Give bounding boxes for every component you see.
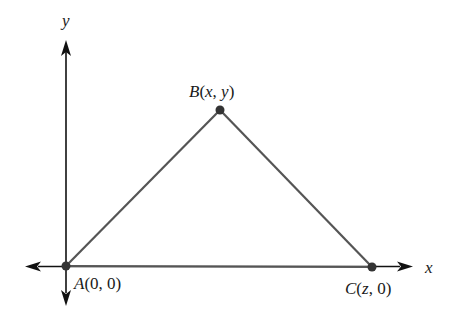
triangle: [66, 110, 372, 267]
side-BC: [220, 110, 372, 267]
point-A-label: A(0, 0): [73, 274, 121, 293]
point-A-marker-icon: [62, 262, 71, 271]
point-C-marker-icon: [368, 263, 377, 272]
y-axis-label: y: [60, 11, 70, 30]
point-B-label: B(x, y): [189, 82, 234, 101]
point-C-label: C(z, 0): [345, 279, 391, 298]
side-AC: [66, 266, 372, 267]
side-AB: [66, 110, 220, 266]
point-B-marker-icon: [216, 106, 225, 115]
coordinate-diagram: y x A(0, 0) B(x, y) C(z, 0): [0, 0, 459, 317]
x-axis-label: x: [424, 258, 433, 277]
